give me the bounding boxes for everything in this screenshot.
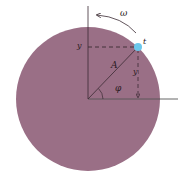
rotating-point [134,43,142,51]
point-label: t [143,38,146,46]
phasor-diagram: ω t y A φ y [0,0,185,179]
phase-label: φ [115,84,121,93]
amplitude-label: A [111,61,118,70]
diagram-canvas [0,0,185,179]
omega-label: ω [120,9,127,18]
y-projection-label: y [133,68,138,76]
y-axis-label-left: y [77,42,82,50]
